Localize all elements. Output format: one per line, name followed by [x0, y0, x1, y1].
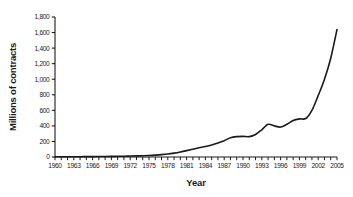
y-axis-tick-label: 400: [39, 122, 50, 129]
x-axis-tick-label: 1966: [86, 162, 100, 169]
x-axis-tick-label: 1984: [199, 162, 213, 169]
line-chart: 02004006008001,0001,2001,4001,6001,80019…: [0, 0, 353, 197]
x-axis-tick-label: 1996: [274, 162, 288, 169]
y-axis-tick-label: 1,800: [34, 13, 50, 20]
x-axis-tick-label: 1987: [217, 162, 231, 169]
data-series-line: [55, 29, 337, 156]
x-axis-tick-label: 1978: [161, 162, 175, 169]
x-axis-tick-label: 1975: [142, 162, 156, 169]
x-axis-tick-label: 1972: [123, 162, 137, 169]
x-axis-tick-label: 1960: [48, 162, 62, 169]
x-axis-tick-label: 1990: [236, 162, 250, 169]
x-axis-tick-label: 1969: [105, 162, 119, 169]
y-axis-tick-label: 0: [46, 153, 50, 160]
x-axis-tick-label: 2002: [311, 162, 325, 169]
x-axis-tick-label: 1981: [180, 162, 194, 169]
x-axis-tick-label: 1963: [67, 162, 81, 169]
x-axis-title: Year: [186, 177, 206, 188]
y-axis-tick-label: 1,000: [34, 76, 50, 83]
x-axis-tick-label: 1999: [293, 162, 307, 169]
y-axis-tick-label: 200: [39, 138, 50, 145]
y-axis-tick-label: 1,200: [34, 60, 50, 67]
y-axis-tick-label: 600: [39, 107, 50, 114]
x-axis-tick-label: 2005: [330, 162, 344, 169]
y-axis-title: Millions of contracts: [7, 43, 18, 131]
y-axis-tick-label: 800: [39, 91, 50, 98]
y-axis-tick-label: 1,600: [34, 29, 50, 36]
chart-canvas: 02004006008001,0001,2001,4001,6001,80019…: [0, 0, 353, 197]
x-axis-tick-label: 1993: [255, 162, 269, 169]
y-axis-tick-label: 1,400: [34, 45, 50, 52]
